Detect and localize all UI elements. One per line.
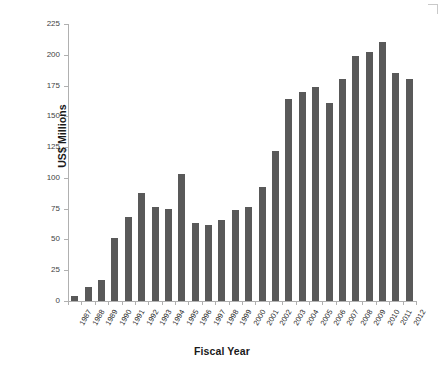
x-tick-label: 2000 bbox=[251, 308, 267, 327]
bar bbox=[111, 238, 118, 301]
y-axis-tick: 75 bbox=[0, 209, 68, 210]
bar bbox=[98, 280, 105, 301]
x-tick-label: 1999 bbox=[238, 308, 254, 327]
x-tick-mark bbox=[322, 301, 323, 305]
x-tick-label: 2001 bbox=[264, 308, 280, 327]
y-tick-label: 75 bbox=[51, 203, 60, 214]
bar bbox=[285, 99, 292, 301]
x-tick-mark bbox=[175, 301, 176, 305]
x-tick-label: 2003 bbox=[291, 308, 307, 327]
x-tick-mark bbox=[95, 301, 96, 305]
x-tick-label: 2006 bbox=[331, 308, 347, 327]
x-axis-title: Fiscal Year bbox=[0, 345, 444, 357]
bar bbox=[192, 223, 199, 301]
bar bbox=[245, 207, 252, 301]
bar bbox=[152, 207, 159, 301]
x-tick-label: 1995 bbox=[184, 308, 200, 327]
x-tick-label: 2008 bbox=[358, 308, 374, 327]
bar bbox=[259, 187, 266, 301]
x-tick-label: 2007 bbox=[345, 308, 361, 327]
y-axis-tick: 225 bbox=[0, 24, 68, 25]
y-axis-tick: 125 bbox=[0, 147, 68, 148]
bar bbox=[71, 296, 78, 301]
y-axis-tick: 150 bbox=[0, 116, 68, 117]
x-tick-label: 2009 bbox=[371, 308, 387, 327]
y-axis-tick: 50 bbox=[0, 239, 68, 240]
x-tick-mark bbox=[242, 301, 243, 305]
x-tick-label: 2002 bbox=[278, 308, 294, 327]
y-tick-label: 175 bbox=[47, 80, 60, 91]
x-tick-label: 2004 bbox=[305, 308, 321, 327]
x-tick-label: 2011 bbox=[398, 308, 414, 326]
y-tick-label: 50 bbox=[51, 233, 60, 244]
bar bbox=[205, 225, 212, 301]
y-tick-label: 0 bbox=[56, 295, 60, 306]
plot-area bbox=[68, 24, 416, 301]
bar bbox=[379, 42, 386, 301]
y-tick-label: 150 bbox=[47, 110, 60, 121]
bar bbox=[85, 287, 92, 301]
x-tick-label: 1994 bbox=[171, 308, 187, 327]
x-tick-mark bbox=[376, 301, 377, 305]
x-tick-label: 1992 bbox=[144, 308, 160, 327]
bar bbox=[352, 56, 359, 301]
x-tick-mark bbox=[282, 301, 283, 305]
x-tick-mark bbox=[349, 301, 350, 305]
bar bbox=[218, 220, 225, 301]
bar bbox=[406, 79, 413, 301]
x-tick-mark bbox=[229, 301, 230, 305]
y-tick-label: 200 bbox=[47, 49, 60, 60]
x-tick-label: 2010 bbox=[385, 308, 401, 327]
x-tick-label: 2012 bbox=[412, 308, 428, 327]
bar bbox=[138, 193, 145, 301]
x-tick-label: 1988 bbox=[90, 308, 106, 327]
x-tick-label: 2005 bbox=[318, 308, 334, 327]
x-tick-label: 1998 bbox=[224, 308, 240, 327]
bar bbox=[339, 79, 346, 301]
y-axis-tick: 175 bbox=[0, 86, 68, 87]
bar bbox=[326, 103, 333, 301]
x-tick-mark bbox=[108, 301, 109, 305]
x-tick-label: 1989 bbox=[104, 308, 120, 327]
bar bbox=[299, 92, 306, 301]
y-axis-tick: 200 bbox=[0, 55, 68, 56]
bar bbox=[178, 174, 185, 301]
x-tick-label: 1996 bbox=[197, 308, 213, 327]
bar bbox=[232, 210, 239, 301]
x-tick-mark bbox=[162, 301, 163, 305]
x-tick-mark bbox=[68, 301, 69, 305]
x-tick-mark bbox=[135, 301, 136, 305]
y-axis-tick: 0 bbox=[0, 301, 68, 302]
x-tick-mark bbox=[188, 301, 189, 305]
bar bbox=[392, 73, 399, 301]
corner-crop-mark bbox=[428, 4, 438, 14]
x-tick-mark bbox=[81, 301, 82, 305]
x-tick-label: 1987 bbox=[77, 308, 93, 327]
x-tick-mark bbox=[215, 301, 216, 305]
y-axis-tick: 100 bbox=[0, 178, 68, 179]
x-tick-mark bbox=[416, 301, 417, 305]
bar bbox=[165, 209, 172, 301]
x-tick-mark bbox=[296, 301, 297, 305]
x-tick-mark bbox=[336, 301, 337, 305]
bar bbox=[125, 217, 132, 301]
bar-chart-figure: US$ Millions 0255075100125150175200225 1… bbox=[0, 0, 444, 370]
y-tick-label: 25 bbox=[51, 264, 60, 275]
x-tick-label: 1997 bbox=[211, 308, 227, 327]
x-tick-mark bbox=[389, 301, 390, 305]
x-tick-label: 1991 bbox=[131, 308, 147, 327]
x-tick-mark bbox=[255, 301, 256, 305]
y-axis-tick: 25 bbox=[0, 270, 68, 271]
y-tick-label: 125 bbox=[47, 141, 60, 152]
x-tick-mark bbox=[362, 301, 363, 305]
x-tick-mark bbox=[202, 301, 203, 305]
y-tick-label: 225 bbox=[47, 18, 60, 29]
x-tick-mark bbox=[403, 301, 404, 305]
bar bbox=[312, 87, 319, 301]
y-tick-label: 100 bbox=[47, 172, 60, 183]
x-tick-label: 1993 bbox=[157, 308, 173, 327]
bar bbox=[366, 52, 373, 301]
x-tick-mark bbox=[122, 301, 123, 305]
x-tick-label: 1990 bbox=[117, 308, 133, 327]
x-tick-mark bbox=[148, 301, 149, 305]
